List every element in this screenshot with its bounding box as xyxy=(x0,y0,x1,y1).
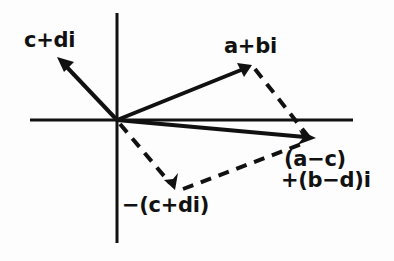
argand-diagram-figure: c+di a+bi −(c+di) (a−c) +(b−d)i xyxy=(0,0,394,261)
label-result-real-part: (a−c) xyxy=(284,149,346,170)
vector-neg-c-plus-di-shaft xyxy=(120,124,170,183)
label-a-plus-bi: a+bi xyxy=(224,36,277,57)
vector-a-plus-bi-shaft xyxy=(117,68,246,120)
vector-result-shaft xyxy=(117,120,305,137)
vector-c-plus-di-shaft xyxy=(62,62,117,120)
label-c-plus-di: c+di xyxy=(24,30,75,51)
label-neg-c-plus-di: −(c+di) xyxy=(122,195,209,216)
dashed-line-a-plus-bi-to-result xyxy=(255,69,311,140)
vector-neg-c-plus-di-arrowhead xyxy=(164,173,178,190)
label-result-imaginary-part: +(b−d)i xyxy=(281,170,371,191)
